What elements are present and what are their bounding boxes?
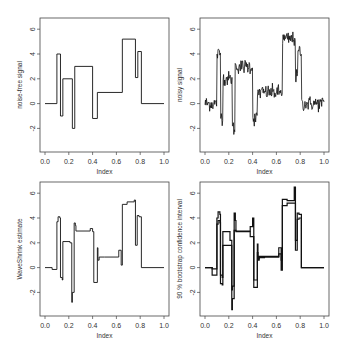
- y-tick-label: 0: [29, 266, 36, 270]
- plot-frame: [40, 18, 169, 152]
- y-tick-label: 2: [189, 241, 196, 245]
- plot-frame: [40, 182, 169, 316]
- x-tick-label: 0.8: [135, 322, 145, 329]
- y-tick-label: 4: [189, 216, 196, 220]
- y-tick-label: 4: [29, 52, 36, 56]
- chart-noise-free-signal: 0.00.20.40.60.81.0-20246Indexnoise-free …: [0, 0, 172, 178]
- chart-waveshrink-estimate: 0.00.20.40.60.81.0-20246IndexWaveShrink …: [0, 164, 172, 342]
- y-tick-label: 0: [29, 102, 36, 106]
- panel-waveshrink-estimate: 0.00.20.40.60.81.0-20246IndexWaveShrink …: [0, 164, 172, 342]
- x-tick-label: 1.0: [319, 322, 329, 329]
- x-tick-label: 0.2: [224, 322, 234, 329]
- chart-bootstrap-interval: 0.00.20.40.60.81.0-20246Index90 % bootst…: [160, 164, 332, 342]
- x-tick-label: 0.6: [112, 322, 122, 329]
- y-tick-label: 2: [189, 77, 196, 81]
- y-tick-label: 2: [29, 77, 36, 81]
- y-tick-label: 4: [29, 216, 36, 220]
- y-tick-label: 0: [189, 266, 196, 270]
- y-tick-label: 4: [189, 52, 196, 56]
- y-tick-label: 6: [29, 191, 36, 195]
- x-tick-label: 0.6: [272, 322, 282, 329]
- plot-frame: [200, 182, 329, 316]
- x-axis-label: Index: [257, 332, 274, 339]
- data-line: [205, 32, 324, 135]
- y-tick-label: 6: [29, 27, 36, 31]
- y-tick-label: -2: [29, 125, 36, 131]
- x-tick-label: 0.2: [64, 322, 74, 329]
- x-tick-label: 0.8: [295, 322, 305, 329]
- y-axis-label: noisy signal: [176, 67, 184, 102]
- y-tick-label: 2: [29, 241, 36, 245]
- data-line: [45, 200, 164, 302]
- upper-bound-line: [205, 187, 324, 290]
- plot-frame: [200, 18, 329, 152]
- y-axis-label: WaveShrink estimate: [16, 218, 23, 280]
- y-tick-label: -2: [189, 289, 196, 295]
- x-tick-label: 0.0: [40, 322, 50, 329]
- x-axis-label: Index: [97, 332, 114, 339]
- y-tick-label: 0: [189, 102, 196, 106]
- panel-bootstrap-interval: 0.00.20.40.60.81.0-20246Index90 % bootst…: [160, 164, 332, 342]
- y-tick-label: 6: [189, 27, 196, 31]
- y-tick-label: 6: [189, 191, 196, 195]
- x-tick-label: 0.0: [200, 322, 210, 329]
- y-tick-label: -2: [189, 125, 196, 131]
- x-tick-label: 0.4: [248, 322, 258, 329]
- chart-noisy-signal: 0.00.20.40.60.81.0-20246Indexnoisy signa…: [160, 0, 332, 178]
- y-axis-label: 90 % bootstrap confidence interval: [176, 199, 184, 299]
- y-tick-label: -2: [29, 289, 36, 295]
- panel-noise-free-signal: 0.00.20.40.60.81.0-20246Indexnoise-free …: [0, 0, 172, 178]
- x-tick-label: 0.4: [88, 322, 98, 329]
- y-axis-label: noise-free signal: [16, 61, 24, 109]
- panel-noisy-signal: 0.00.20.40.60.81.0-20246Indexnoisy signa…: [160, 0, 332, 178]
- data-line: [45, 39, 164, 128]
